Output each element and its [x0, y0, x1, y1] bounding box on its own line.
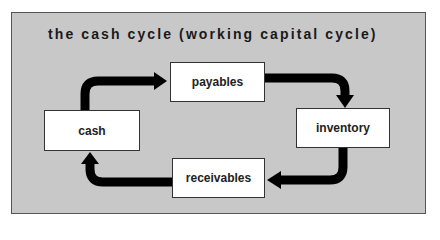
node-receivables: receivables	[172, 158, 265, 198]
node-cash-label: cash	[78, 124, 105, 138]
diagram-title: the cash cycle (working capital cycle)	[48, 26, 378, 42]
node-payables-label: payables	[192, 75, 243, 89]
node-payables: payables	[170, 62, 265, 102]
node-cash: cash	[44, 110, 140, 151]
node-inventory: inventory	[296, 108, 390, 148]
node-receivables-label: receivables	[186, 171, 251, 185]
node-inventory-label: inventory	[316, 121, 370, 135]
